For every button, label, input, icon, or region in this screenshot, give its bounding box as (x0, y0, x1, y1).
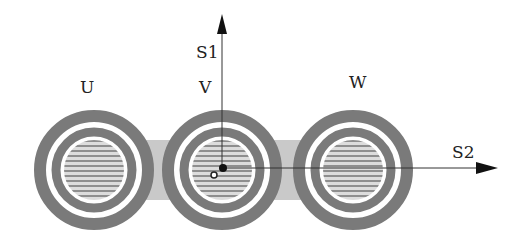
phase-w-cable (299, 116, 407, 224)
label-v: V (198, 77, 212, 97)
s2-arrow-icon (476, 162, 498, 174)
label-s2: S2 (452, 142, 474, 162)
label-w: W (349, 72, 367, 92)
phase-u-cable (40, 116, 148, 224)
origin-point (219, 164, 227, 172)
offset-point (211, 172, 217, 178)
label-u: U (80, 77, 94, 97)
label-s1: S1 (196, 42, 218, 62)
cable-diagram: U V W S1 S2 (0, 0, 517, 251)
s1-arrow-icon (217, 14, 227, 34)
